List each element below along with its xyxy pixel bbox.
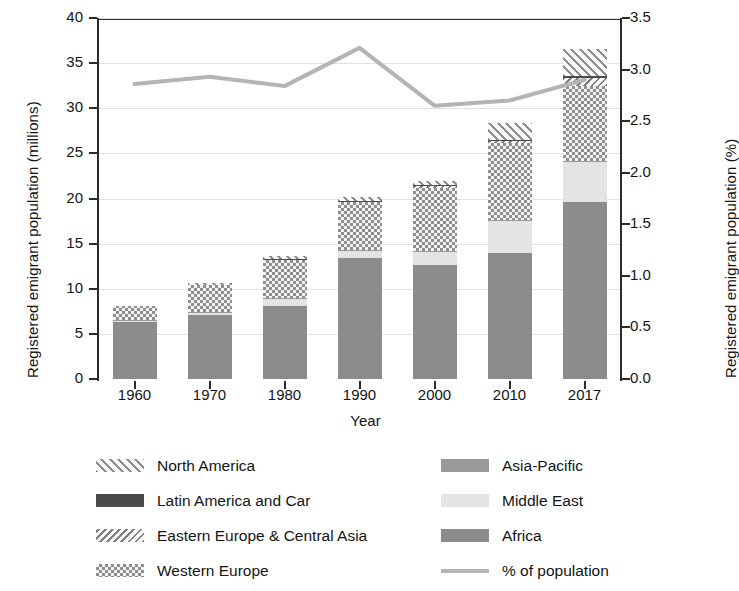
legend-label: % of population (502, 562, 609, 580)
legend-swatch-middleeast-icon (441, 494, 489, 507)
y-axis-left-tick-label: 40 (37, 8, 83, 25)
gridline (99, 18, 620, 19)
y-axis-right-tick (622, 223, 630, 225)
bar-segment-northamerica (338, 197, 382, 201)
bar-segment-middleeast (563, 162, 607, 202)
bar-segment-africa (188, 315, 232, 379)
bar-segment-easterneurope (338, 201, 382, 202)
y-axis-left-tick (89, 333, 97, 335)
y-axis-left-tick-label: 20 (37, 189, 83, 206)
y-axis-left-tick-label: 0 (37, 369, 83, 386)
legend-item-northamerica: North America (96, 457, 441, 475)
legend-swatch-africa-icon (441, 529, 489, 542)
bar-segment-westerneurope (188, 285, 232, 312)
line-path-pct (135, 48, 585, 106)
y-axis-right-tick-label: 0.0 (630, 369, 680, 386)
gridline (99, 63, 620, 64)
y-axis-right-tick-label: 3.0 (630, 60, 680, 77)
legend-item-middleeast: Middle East (441, 492, 696, 510)
y-axis-right-tick-label: 2.5 (630, 111, 680, 128)
bar-segment-middleeast (113, 320, 157, 322)
legend-swatch-latin-icon (96, 494, 144, 507)
y-axis-right-tick (622, 326, 630, 328)
bar-segment-westerneurope (113, 305, 157, 319)
y-axis-right-tick (622, 69, 630, 71)
x-axis-tick-label: 2000 (400, 386, 470, 403)
legend-swatch-asiapacific-icon (441, 459, 489, 472)
y-axis-right-title: Registered emigrant population (%) (722, 139, 739, 378)
legend-row: Latin America and CarMiddle East (96, 483, 696, 518)
y-axis-right-tick (622, 275, 630, 277)
bar-segment-middleeast (488, 221, 532, 253)
bar-segment-middleeast (263, 299, 307, 306)
bar-segment-asiapacific (263, 298, 307, 299)
plot-area: 0510152025303540 0.00.51.01.52.02.53.03.… (97, 18, 622, 381)
bar-segment-middleeast (338, 251, 382, 258)
bar-segment-easterneurope (488, 141, 532, 143)
legend-item-easterneurope: Eastern Europe & Central Asia (96, 527, 441, 545)
bar-segment-westerneurope (488, 143, 532, 221)
bar-segment-northamerica (488, 123, 532, 140)
y-axis-left-tick-label: 30 (37, 98, 83, 115)
y-axis-left-tick (89, 243, 97, 245)
bar-segment-northamerica (113, 305, 157, 306)
y-axis-left-tick-label: 35 (37, 53, 83, 70)
bar-segment-middleeast (188, 312, 232, 315)
bar-segment-africa (338, 258, 382, 379)
y-axis-right-tick-label: 0.5 (630, 317, 680, 334)
legend-label: Asia-Pacific (502, 457, 583, 475)
legend-label: Latin America and Car (157, 492, 310, 510)
bar-segment-latin (413, 185, 457, 186)
bar-segment-northamerica (263, 256, 307, 258)
bar-segment-westerneurope (338, 202, 382, 250)
bar-segment-westerneurope (413, 188, 457, 251)
bar-segment-northamerica (563, 49, 607, 76)
bar-segment-asiapacific (413, 251, 457, 252)
y-axis-left-tick-label: 10 (37, 279, 83, 296)
legend-item-pct: % of population (441, 562, 696, 580)
bar-2000 (413, 181, 457, 379)
bar-segment-asiapacific (338, 250, 382, 251)
gridline (99, 153, 620, 154)
legend-swatch-northamerica-icon (96, 459, 144, 472)
legend-label: Western Europe (157, 562, 269, 580)
legend: North AmericaAsia-PacificLatin America a… (96, 448, 696, 588)
y-axis-right-tick (622, 378, 630, 380)
legend-row: North AmericaAsia-Pacific (96, 448, 696, 483)
y-axis-left-tick (89, 152, 97, 154)
y-axis-left-tick-label: 25 (37, 143, 83, 160)
x-axis-title: Year (0, 412, 731, 429)
bar-segment-africa (263, 306, 307, 379)
bar-1970 (188, 283, 232, 379)
legend-label: Eastern Europe & Central Asia (157, 527, 367, 545)
legend-item-latin: Latin America and Car (96, 492, 441, 510)
bar-segment-latin (563, 76, 607, 78)
y-axis-left-tick (89, 17, 97, 19)
y-axis-left-tick (89, 62, 97, 64)
y-axis-right-tick-label: 1.5 (630, 214, 680, 231)
bar-segment-westerneurope (263, 260, 307, 298)
x-axis-tick-label: 2010 (475, 386, 545, 403)
legend-label: Middle East (502, 492, 583, 510)
x-axis-tick-label: 2017 (550, 386, 620, 403)
legend-label: North America (157, 457, 255, 475)
bar-segment-westerneurope (563, 86, 607, 161)
bar-segment-easterneurope (563, 78, 607, 86)
y-axis-left-tick (89, 288, 97, 290)
y-axis-left-line (97, 18, 99, 381)
bar-segment-asiapacific (488, 220, 532, 221)
y-axis-left-tick-label: 15 (37, 234, 83, 251)
x-axis-tick-label: 1980 (250, 386, 320, 403)
legend-swatch-easterneurope-icon (96, 529, 144, 542)
bar-segment-northamerica (413, 181, 457, 185)
y-axis-left-tick (89, 378, 97, 380)
bar-segment-easterneurope (413, 186, 457, 187)
bar-2010 (488, 123, 532, 379)
legend-swatch-westerneurope-icon (96, 564, 144, 577)
bar-segment-easterneurope (263, 259, 307, 260)
bar-1960 (113, 305, 157, 379)
bar-segment-africa (113, 322, 157, 379)
legend-item-africa: Africa (441, 527, 696, 545)
legend-swatch-pct-icon (441, 569, 489, 573)
legend-row: Western Europe% of population (96, 553, 696, 588)
